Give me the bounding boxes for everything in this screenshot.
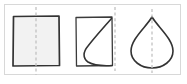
half-profile-panel-drawing	[67, 5, 122, 76]
half-profile-panel	[67, 5, 122, 76]
square-panel-drawing	[5, 5, 67, 76]
figure-root: Solid of revolution construction square …	[0, 0, 187, 84]
square-panel	[5, 5, 67, 76]
teardrop-panel	[122, 5, 182, 76]
figure-accessible-labels: Solid of revolution construction square …	[0, 0, 1, 1]
teardrop-panel-drawing	[122, 5, 182, 76]
figure-outer-frame	[4, 4, 181, 75]
figure-title: Solid of revolution construction	[0, 0, 1, 1]
